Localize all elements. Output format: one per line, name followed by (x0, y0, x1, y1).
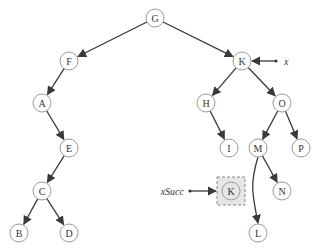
edge-M-N (262, 156, 277, 182)
bst-diagram: xxSucc GFKAHOEIMPCKNBDL (0, 0, 322, 248)
node-l: L (249, 224, 267, 242)
edge-E-C (47, 156, 64, 183)
node-label: K (227, 186, 235, 197)
node-n: N (273, 182, 291, 200)
pointer-label: x (283, 56, 289, 67)
edge-G-F (78, 22, 147, 57)
edge-M-L (253, 157, 258, 223)
node-label: P (298, 143, 304, 154)
node-label: O (278, 98, 285, 109)
edge-C-B (24, 199, 38, 224)
node-label: M (254, 143, 263, 154)
node-label: L (255, 228, 261, 239)
node-c: C (33, 182, 51, 200)
node-label: K (238, 56, 246, 67)
node-a: A (33, 94, 51, 112)
node-label: C (39, 186, 46, 197)
edge-H-I (210, 111, 224, 139)
node-f: F (60, 52, 78, 70)
node-g: G (146, 9, 164, 27)
node-o: O (273, 94, 291, 112)
node-label: A (38, 98, 46, 109)
node-ksucc: K (222, 182, 240, 200)
node-label: N (278, 186, 285, 197)
node-label: B (16, 228, 23, 239)
node-label: D (65, 228, 72, 239)
node-b: B (10, 224, 28, 242)
edge-C-D (47, 199, 64, 225)
edge-G-K (163, 22, 233, 57)
pointer-x: x (252, 56, 289, 67)
node-e: E (60, 139, 78, 157)
pointer-label: xSucc (160, 186, 185, 197)
node-k: K (233, 52, 251, 70)
node-p: P (292, 139, 310, 157)
pointer-xsucc: xSucc (160, 186, 216, 197)
node-d: D (60, 224, 78, 242)
edge-K-O (248, 68, 275, 96)
edge-K-H (213, 68, 237, 96)
node-label: G (151, 13, 158, 24)
node-m: M (249, 139, 267, 157)
node-label: I (227, 143, 230, 154)
edge-O-M (263, 111, 278, 139)
node-label: E (66, 143, 72, 154)
edge-O-P (286, 111, 298, 138)
edge-F-A (47, 69, 64, 95)
node-i: I (220, 139, 238, 157)
node-h: H (197, 94, 215, 112)
node-label: H (202, 98, 209, 109)
edge-A-E (47, 111, 64, 140)
node-label: F (66, 56, 72, 67)
